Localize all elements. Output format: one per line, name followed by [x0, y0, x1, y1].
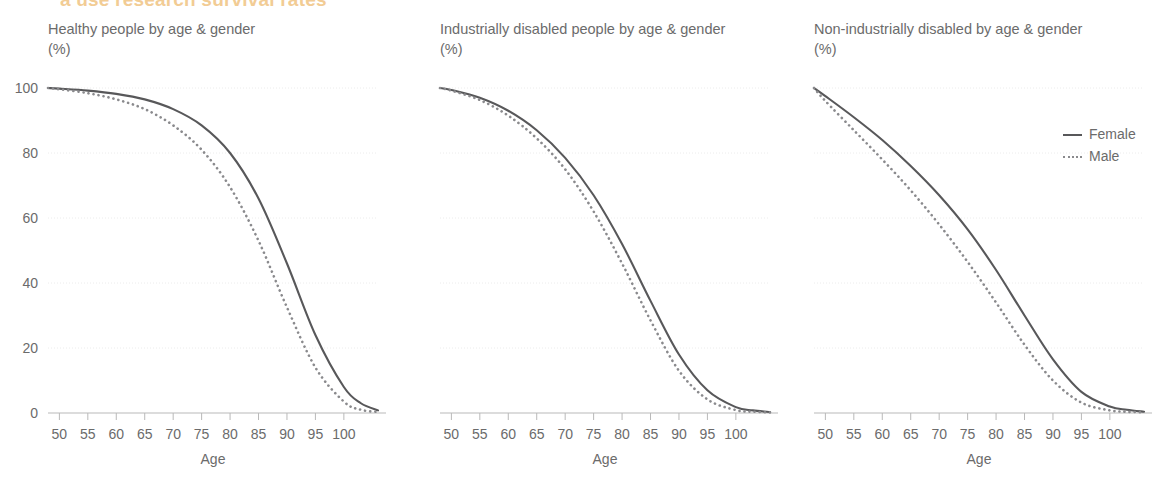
plot-area-non-industrially-disabled: 50556065707580859095100Age — [766, 0, 1156, 497]
x-axis-tick-label: 75 — [960, 426, 976, 442]
legend-label-female: Female — [1089, 123, 1136, 145]
x-axis-tick-label: 55 — [846, 426, 862, 442]
chart-panel-non-industrially-disabled: Non-industrially disabled by age & gende… — [766, 0, 1156, 497]
x-axis-tick-label: 90 — [671, 426, 687, 442]
x-axis-tick-label: 65 — [137, 426, 153, 442]
legend: Female Male — [1063, 123, 1136, 167]
plot-area-healthy: 02040608010050556065707580859095100Age — [0, 0, 390, 497]
x-axis-title: Age — [967, 451, 992, 467]
x-axis-tick-label: 100 — [332, 426, 356, 442]
x-axis-tick-label: 55 — [80, 426, 96, 442]
x-axis-tick-label: 60 — [108, 426, 124, 442]
x-axis-tick-label: 70 — [165, 426, 181, 442]
x-axis-tick-label: 65 — [903, 426, 919, 442]
x-axis-tick-label: 60 — [500, 426, 516, 442]
x-axis-tick-label: 75 — [194, 426, 210, 442]
series-line-male — [440, 88, 770, 412]
x-axis-tick-label: 70 — [557, 426, 573, 442]
survival-curves-figure: a use research survival rates Healthy pe… — [0, 0, 1167, 497]
x-axis-tick-label: 75 — [586, 426, 602, 442]
x-axis-tick-label: 65 — [529, 426, 545, 442]
x-axis-tick-label: 100 — [1098, 426, 1122, 442]
legend-item-male: Male — [1063, 145, 1136, 167]
x-axis-tick-label: 95 — [1074, 426, 1090, 442]
x-axis-tick-label: 80 — [222, 426, 238, 442]
x-axis-tick-label: 55 — [472, 426, 488, 442]
x-axis-tick-label: 60 — [874, 426, 890, 442]
y-axis-tick-label: 40 — [22, 275, 38, 291]
series-line-female — [440, 88, 770, 412]
x-axis-tick-label: 90 — [1045, 426, 1061, 442]
y-axis-tick-label: 20 — [22, 340, 38, 356]
x-axis-tick-label: 85 — [643, 426, 659, 442]
x-axis-tick-label: 80 — [614, 426, 630, 442]
x-axis-title: Age — [201, 451, 226, 467]
y-axis-tick-label: 100 — [15, 80, 39, 96]
dotted-line-swatch-icon — [1063, 151, 1082, 162]
x-axis-tick-label: 95 — [700, 426, 716, 442]
x-axis-tick-label: 70 — [931, 426, 947, 442]
y-axis-tick-label: 60 — [22, 210, 38, 226]
x-axis-title: Age — [593, 451, 618, 467]
x-axis-tick-label: 90 — [279, 426, 295, 442]
y-axis-tick-label: 0 — [30, 405, 38, 421]
x-axis-tick-label: 95 — [308, 426, 324, 442]
plot-area-industrially-disabled: 50556065707580859095100Age — [392, 0, 782, 497]
x-axis-tick-label: 50 — [818, 426, 834, 442]
solid-line-swatch-icon — [1063, 129, 1082, 140]
legend-label-male: Male — [1089, 145, 1119, 167]
x-axis-tick-label: 85 — [251, 426, 267, 442]
series-line-female — [48, 88, 378, 410]
y-axis-tick-label: 80 — [22, 145, 38, 161]
chart-panel-industrially-disabled: Industrially disabled people by age & ge… — [392, 0, 782, 497]
x-axis-tick-label: 100 — [724, 426, 748, 442]
x-axis-tick-label: 80 — [988, 426, 1004, 442]
chart-panel-healthy: Healthy people by age & gender (%) 02040… — [0, 0, 390, 497]
x-axis-tick-label: 50 — [444, 426, 460, 442]
x-axis-tick-label: 50 — [52, 426, 68, 442]
x-axis-tick-label: 85 — [1017, 426, 1033, 442]
legend-item-female: Female — [1063, 123, 1136, 145]
